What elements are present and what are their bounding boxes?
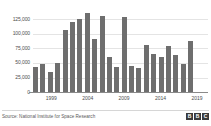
bar <box>33 67 38 92</box>
bar <box>70 22 75 92</box>
y-axis-tick-label: 100,000 <box>0 31 30 36</box>
bar-series <box>33 12 208 92</box>
y-axis-tick-label: 125,000 <box>0 17 30 22</box>
bar <box>144 45 149 92</box>
y-axis-tick-label: 75,000 <box>0 46 30 51</box>
bar <box>114 67 119 92</box>
bar <box>181 64 186 92</box>
bar-chart: 125,000100,00075,00050,00025,0000 199920… <box>0 0 211 126</box>
bar <box>40 64 45 93</box>
bar <box>173 55 178 92</box>
x-axis-tick-label: 2019 <box>192 95 203 101</box>
y-axis-labels: 125,000100,00075,00050,00025,0000 <box>0 0 30 126</box>
bar <box>48 72 53 92</box>
x-axis-baseline <box>29 92 208 93</box>
y-axis-tick-label: 50,000 <box>0 60 30 65</box>
bbc-logo-letter: C <box>202 113 209 120</box>
x-axis-tick-label: 1999 <box>46 95 57 101</box>
bar <box>122 17 127 92</box>
bar <box>166 46 171 93</box>
footer-divider <box>2 110 209 111</box>
y-axis-tick-label: 0 <box>0 90 30 95</box>
y-axis-tick-label: 25,000 <box>0 75 30 80</box>
bbc-logo: BBC <box>186 113 209 120</box>
bbc-logo-letter: B <box>186 113 193 120</box>
bar <box>55 63 60 92</box>
bar <box>129 66 134 92</box>
bar <box>151 54 156 92</box>
bar <box>159 57 164 92</box>
bar <box>188 41 193 92</box>
x-axis-labels: 19992004200920142019 <box>33 95 208 103</box>
bar <box>63 30 68 92</box>
bbc-logo-letter: B <box>194 113 201 120</box>
bar <box>92 39 97 93</box>
bar <box>77 19 82 92</box>
bar <box>100 16 105 92</box>
source-note: Source: National Institute for Space Res… <box>2 113 95 120</box>
bar <box>136 68 141 92</box>
bar <box>85 13 90 92</box>
x-axis-tick-label: 2009 <box>119 95 130 101</box>
bar <box>107 57 112 93</box>
x-axis-tick-label: 2004 <box>82 95 93 101</box>
x-axis-tick-label: 2014 <box>155 95 166 101</box>
